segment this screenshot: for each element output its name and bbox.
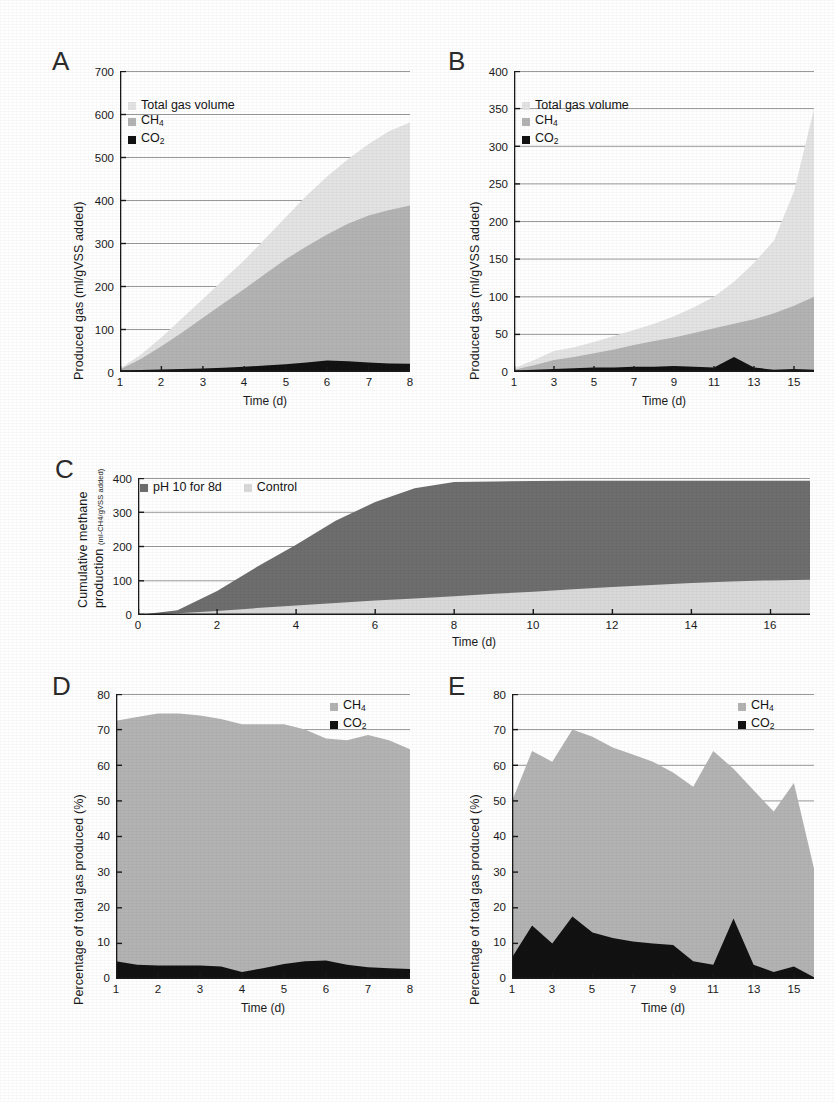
panel-a-xtick: 5 [274, 377, 298, 389]
legend-swatch-co2 [522, 136, 530, 144]
panel-d-ytick: 50 [78, 796, 110, 808]
panel-c-plot [138, 478, 810, 615]
panel-e-xtick: 3 [540, 984, 564, 996]
panel-d-ytick: 70 [78, 725, 110, 737]
legend-item-ph10[interactable]: pH 10 for 8d [140, 480, 222, 495]
panel-a-xtick: 1 [108, 377, 132, 389]
legend-label-co2: CO2 [343, 716, 366, 734]
legend-item-total-gas[interactable]: Total gas volume [128, 98, 235, 113]
panel-d-xtick: 1 [104, 984, 128, 996]
legend-item-total-gas[interactable]: Total gas volume [522, 98, 629, 113]
panel-a-xtick: 3 [191, 377, 215, 389]
panel-e-ytick: 80 [474, 690, 506, 702]
panel-a-xlabel: Time (d) [215, 394, 315, 408]
legend-item-ch4[interactable]: CH4 [522, 113, 629, 131]
legend-item-co2[interactable]: CO2 [330, 716, 366, 734]
panel-a-ytick: 100 [78, 325, 114, 337]
panel-d-xtick: 7 [356, 984, 380, 996]
panel-c-xtick: 16 [758, 620, 782, 632]
panel-a-ytick: 700 [78, 67, 114, 79]
panel-a-ytick: 500 [78, 153, 114, 165]
panel-b-ytick: 400 [472, 67, 508, 79]
panel-d-ytick: 30 [78, 867, 110, 879]
legend-label-co2: CO2 [141, 131, 164, 149]
panel-b-ytick: 200 [472, 217, 508, 229]
panel-a-ytick: 200 [78, 282, 114, 294]
legend-label-ph10: pH 10 for 8d [153, 480, 222, 495]
legend-item-co2[interactable]: CO2 [522, 131, 629, 149]
panel-d-xtick: 5 [272, 984, 296, 996]
panel-d-xtick: 2 [146, 984, 170, 996]
panel-a-xtick: 8 [398, 377, 422, 389]
legend-item-ch4[interactable]: CH4 [128, 113, 235, 131]
panel-c-xtick: 10 [521, 620, 545, 632]
panel-b-xtick: 11 [702, 377, 726, 389]
panel-e-xtick: 15 [782, 984, 806, 996]
panel-d-plot [116, 694, 410, 979]
panel-c-letter: C [55, 454, 74, 485]
panel-b-xtick: 9 [662, 377, 686, 389]
legend-label-total-gas: Total gas volume [141, 98, 235, 113]
panel-b-ytick: 100 [472, 292, 508, 304]
panel-e-xtick: 1 [500, 984, 524, 996]
panel-c-xtick: 2 [205, 620, 229, 632]
legend-swatch-ph10 [140, 484, 148, 492]
legend-swatch-total-gas [128, 102, 136, 110]
panel-a-ytick: 600 [78, 110, 114, 122]
panel-d-ytick: 20 [78, 902, 110, 914]
panel-c-ytick: 200 [96, 542, 132, 554]
legend-item-ch4[interactable]: CH4 [738, 698, 774, 716]
panel-c-xtick: 0 [126, 620, 150, 632]
panel-e-ytick: 70 [474, 725, 506, 737]
panel-e-xtick: 7 [621, 984, 645, 996]
panel-c-xtick: 6 [363, 620, 387, 632]
panel-e-ytick: 10 [474, 937, 506, 949]
panel-d-letter: D [52, 671, 71, 702]
legend-swatch-ch4 [330, 703, 338, 711]
panel-d-legend: CH4 CO2 [330, 698, 366, 734]
panel-d-ytick: 40 [78, 831, 110, 843]
panel-c-xtick: 8 [442, 620, 466, 632]
figure-canvas: A Produced gas (ml/gVSS added) 700 600 5… [0, 0, 835, 1102]
panel-e-legend: CH4 CO2 [738, 698, 774, 734]
panel-d-xtick: 3 [188, 984, 212, 996]
panel-b-xtick: 5 [582, 377, 606, 389]
panel-a-ytick: 400 [78, 196, 114, 208]
panel-a-xtick: 2 [149, 377, 173, 389]
legend-label-ch4: CH4 [141, 113, 164, 131]
panel-d-ytick: 10 [78, 937, 110, 949]
panel-a-legend: Total gas volume CH4 CO2 [128, 98, 235, 149]
legend-item-co2[interactable]: CO2 [128, 131, 235, 149]
panel-d-xtick: 6 [314, 984, 338, 996]
panel-b: B Produced gas (ml/gVSS added) 400 350 3… [420, 0, 835, 430]
panel-d-ytick: 60 [78, 761, 110, 773]
panel-e-plot [512, 694, 814, 979]
panel-e-chart-svg [512, 694, 814, 979]
legend-label-co2: CO2 [535, 131, 558, 149]
legend-item-co2[interactable]: CO2 [738, 716, 774, 734]
legend-swatch-ch4 [738, 703, 746, 711]
legend-swatch-co2 [330, 721, 338, 729]
panel-c-ytick: 300 [96, 508, 132, 520]
legend-label-ch4: CH4 [535, 113, 558, 131]
panel-b-xtick: 1 [502, 377, 526, 389]
legend-swatch-control [244, 484, 252, 492]
panel-a-xtick: 6 [315, 377, 339, 389]
panel-e: E Percentage of total gas produced (%) 8… [420, 645, 835, 1102]
panel-c-ytick: 100 [96, 576, 132, 588]
panel-d-area-ch4 [116, 714, 410, 979]
panel-e-xtick: 9 [661, 984, 685, 996]
legend-item-ch4[interactable]: CH4 [330, 698, 366, 716]
legend-item-control[interactable]: Control [244, 480, 297, 495]
panel-e-ytick: 60 [474, 761, 506, 773]
panel-e-ytick: 40 [474, 831, 506, 843]
panel-e-ytick: 0 [474, 973, 506, 985]
panel-b-ytick: 300 [472, 142, 508, 154]
legend-label-ch4: CH4 [343, 698, 366, 716]
panel-a-letter: A [52, 46, 69, 77]
panel-c-chart-svg [138, 478, 810, 615]
panel-b-ytick: 350 [472, 104, 508, 116]
legend-swatch-co2 [738, 721, 746, 729]
panel-e-ytick: 20 [474, 902, 506, 914]
panel-e-ytick: 30 [474, 867, 506, 879]
